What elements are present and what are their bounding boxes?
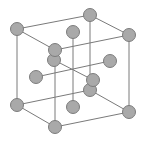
fcc-lattice-diagram bbox=[0, 0, 144, 141]
atom-bfr bbox=[123, 106, 136, 119]
atom-right_c bbox=[104, 55, 117, 68]
atom-bbl bbox=[11, 99, 24, 112]
atom-tbr bbox=[84, 9, 97, 22]
bond-line-tfr-tfl bbox=[55, 35, 129, 50]
bond-line-bbl-bbr bbox=[17, 90, 90, 105]
atom-tbl bbox=[11, 23, 24, 36]
atom-bfl bbox=[49, 121, 62, 134]
atom-bottom_c bbox=[67, 101, 80, 114]
atom-tfr bbox=[123, 29, 136, 42]
lattice-svg bbox=[0, 0, 144, 141]
bond-line-bfr-bfl bbox=[55, 112, 129, 127]
bond-line-tbl-tbr bbox=[17, 15, 90, 29]
atom-tfl bbox=[49, 44, 62, 57]
atom-front_c bbox=[87, 74, 100, 87]
atom-left_c bbox=[30, 71, 43, 84]
atom-top_c bbox=[67, 26, 80, 39]
